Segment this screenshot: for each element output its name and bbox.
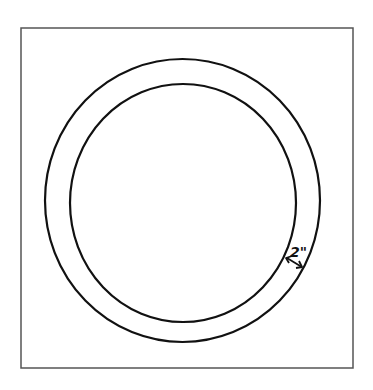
width-dimension: 2" [286, 244, 307, 268]
inner-circle [70, 84, 296, 322]
dimension-label: 2" [290, 244, 307, 260]
ring-diagram: 2" [0, 0, 373, 390]
outer-circle [45, 59, 320, 342]
